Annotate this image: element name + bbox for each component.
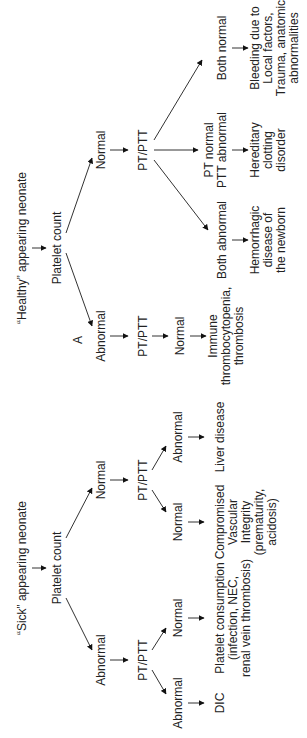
outcome-hereditary-clotting: Hereditary clotting disorder (249, 122, 288, 177)
outcome-line: disorder (275, 122, 288, 177)
arrow-healthy-ptptt-to-both-normal (154, 60, 202, 140)
healthy-platelet-count: Platelet count (51, 212, 64, 285)
arrow-sick-ptptt2-to-abnormal (152, 446, 166, 470)
sick-abn-ptptt: PT/PTT (137, 639, 150, 680)
outcome-compromised-vascular: Compromised Vascular Integrity (prematur… (214, 485, 279, 560)
flowchart-canvas: “Sick” appearing neonate Platelet count … (0, 0, 307, 738)
outcome-line: thrombosis (233, 287, 246, 386)
arrow-healthy-ptptt-to-both-abnormal (154, 160, 208, 230)
healthy-abnormal: Abnormal (95, 310, 108, 361)
sick-norm-ptptt: PT/PTT (137, 459, 150, 500)
sick-norm-normal: Normal (172, 503, 185, 542)
outcome-platelet-consumption: Platelet consumption (infection, NEC, re… (214, 559, 253, 677)
sick-abn-abnormal: Abnormal (172, 677, 185, 728)
outcome-line: abnormalities (288, 0, 301, 96)
arrow-sick-count-to-normal (66, 488, 92, 538)
outcome-dic: DIC (214, 693, 227, 714)
outcome-bleeding-local-factors: Bleeding due to Local factors, Trauma, a… (249, 0, 301, 96)
sick-abnormal: Abnormal (95, 634, 108, 685)
connector-layer (0, 0, 307, 738)
healthy-abn-result-normal: Normal (174, 317, 187, 356)
arrow-healthy-count-to-normal (66, 158, 92, 233)
sick-abn-normal: Normal (172, 599, 185, 638)
outcome-line: acidosis) (266, 485, 279, 560)
outcome-line: the newborn (275, 206, 288, 275)
healthy-abn-ptptt: PT/PTT (137, 315, 150, 356)
sick-neonate-title: “Sick” appearing neonate (16, 501, 29, 635)
healthy-normal: Normal (95, 131, 108, 170)
sick-platelet-count: Platelet count (51, 532, 64, 605)
healthy-neonate-title: “Healthy” appearing neonate (16, 172, 29, 324)
sick-norm-abnormal: Abnormal (172, 411, 185, 462)
outcome-line: renal vein thrombosis) (240, 559, 253, 677)
arrow-sick-count-to-abnormal (66, 598, 92, 650)
healthy-norm-ptptt: PT/PTT (137, 129, 150, 170)
outcome-hemorrhagic-disease: Hemorrhagic disease of the newborn (249, 206, 288, 275)
outcome-liver-disease: Liver disease (214, 402, 227, 473)
arrow-healthy-count-to-abnormal (66, 253, 92, 326)
panel-label: A (72, 336, 85, 344)
healthy-both-normal: Both normal (216, 16, 229, 81)
arrow-sick-ptptt2-to-normal (152, 490, 166, 512)
result-line: PTT abnormal (216, 112, 229, 188)
arrow-sick-ptptt-to-normal (152, 628, 166, 650)
sick-normal: Normal (95, 461, 108, 500)
arrow-sick-ptptt-to-abnormal (152, 670, 166, 694)
healthy-both-abnormal: Both abnormal (216, 201, 229, 279)
healthy-pt-normal-ptt-abnormal: PT normal PTT abnormal (203, 112, 229, 188)
outcome-immune-thrombocytopenia: Immune thrombocytopenia, thrombosis (207, 287, 246, 386)
